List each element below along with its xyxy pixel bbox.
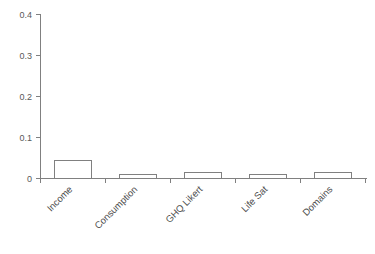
y-tick-label-3: 0.3 [19,51,32,61]
bar-domains [315,172,352,178]
bar-ghq-likert [185,172,222,178]
y-tick-label-4: 0.4 [19,10,32,20]
x-category-label-life-sat: Life Sat [239,183,270,214]
bar-chart: 0 0.1 0.2 0.3 0.4 [0,0,375,254]
bar-life-sat [250,174,287,178]
x-category-label-ghq-likert: GHQ Likert [163,183,205,225]
x-axis-category-labels: Income Consumption GHQ Likert Life Sat D… [45,183,335,231]
x-category-label-consumption: Consumption [92,184,139,231]
y-tick-label-2: 0.2 [19,92,32,102]
bar-consumption [120,174,157,178]
x-axis-ticks [41,179,366,184]
chart-plot-area: 0 0.1 0.2 0.3 0.4 [0,0,375,254]
bar-income [55,160,92,178]
x-category-label-domains: Domains [300,183,334,217]
y-tick-label-1: 0.1 [19,133,32,143]
x-category-label-income: Income [45,184,75,214]
y-tick-label-0: 0 [27,174,32,184]
y-axis-ticks: 0 0.1 0.2 0.3 0.4 [19,10,40,184]
bar-series [55,160,352,178]
